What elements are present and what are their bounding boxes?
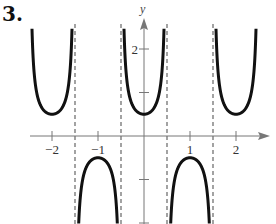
chart-figure: 3. y−2−1122: [0, 0, 276, 224]
plot-area: y−2−1122: [0, 0, 276, 224]
x-tick-label: 2: [233, 142, 240, 157]
x-tick-label: −1: [91, 142, 105, 157]
y-tick-label: 2: [132, 42, 139, 57]
x-tick-label: 1: [187, 142, 194, 157]
curve-branch-down-2: [171, 158, 210, 224]
curve-branch-up-1: [32, 29, 72, 115]
y-axis-label: y: [139, 2, 146, 16]
x-tick-label: −2: [45, 142, 59, 157]
curve-branch-down-1: [79, 158, 118, 224]
axes: [30, 18, 270, 224]
curve-branch-up-3: [216, 29, 256, 115]
